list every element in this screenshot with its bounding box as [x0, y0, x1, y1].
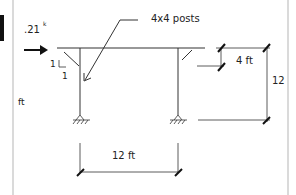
- left-brace: [64, 52, 79, 66]
- slope-rise: 1: [50, 59, 56, 69]
- posts-label: 4x4 posts: [151, 13, 200, 24]
- load-unit: k: [43, 20, 47, 27]
- leader-arrow-icon: [84, 20, 138, 81]
- right-pin-support-icon: [170, 115, 187, 124]
- frame-diagram: .21 k 1 1 4x4 posts ft: [0, 0, 296, 195]
- load-arrow-icon: [24, 45, 48, 55]
- slope-run: 1: [62, 71, 68, 81]
- left-pin-support-icon: [73, 115, 90, 124]
- ft-fragment-label: ft: [18, 97, 25, 107]
- brace-dimension: [197, 44, 270, 71]
- height-dim-label: 12: [272, 75, 285, 86]
- height-dimension: [198, 48, 270, 124]
- load-label: .21: [24, 24, 40, 35]
- right-brace: [182, 50, 192, 60]
- brace-dim-label: 4 ft: [236, 55, 253, 66]
- edge-bar: [0, 15, 4, 41]
- slope-triangle-icon: [59, 60, 66, 67]
- span-dim-label: 12 ft: [112, 150, 135, 161]
